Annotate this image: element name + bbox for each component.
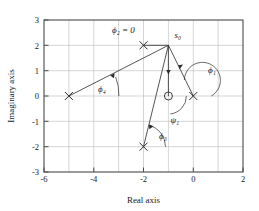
label-psi1: ψ₁ bbox=[171, 115, 180, 125]
ytick-label-2: 1 bbox=[35, 66, 39, 76]
label-phi2: ϕ₂ = 0 bbox=[112, 25, 135, 35]
ytick-label-4: -1 bbox=[32, 117, 39, 127]
ytick-label-3: 0 bbox=[35, 91, 39, 101]
xtick-label-2: -2 bbox=[140, 174, 147, 184]
x-axis-title: Real axis bbox=[127, 195, 161, 205]
root-locus-figure: -6 -4 -2 0 2 3 2 1 0 -1 -2 -3 Real axis … bbox=[0, 0, 259, 211]
label-phi1: ϕ₁ bbox=[208, 65, 216, 75]
y-axis-title: Imaginary axis bbox=[6, 69, 16, 123]
ytick-label-0: 3 bbox=[35, 15, 39, 25]
ytick-label-6: -3 bbox=[32, 167, 39, 177]
ytick-label-5: -2 bbox=[32, 142, 39, 152]
xtick-label-3: 0 bbox=[191, 174, 195, 184]
label-phi4: ϕ₄ bbox=[98, 84, 106, 94]
plot-svg: -6 -4 -2 0 2 3 2 1 0 -1 -2 -3 Real axis … bbox=[0, 0, 259, 211]
label-phi3: ϕ₃ bbox=[159, 131, 167, 141]
xtick-label-1: -4 bbox=[90, 174, 98, 184]
xtick-label-0: -6 bbox=[40, 174, 47, 184]
ytick-label-1: 2 bbox=[35, 41, 39, 51]
xtick-label-4: 2 bbox=[241, 174, 245, 184]
label-s0: s₀ bbox=[175, 30, 182, 40]
